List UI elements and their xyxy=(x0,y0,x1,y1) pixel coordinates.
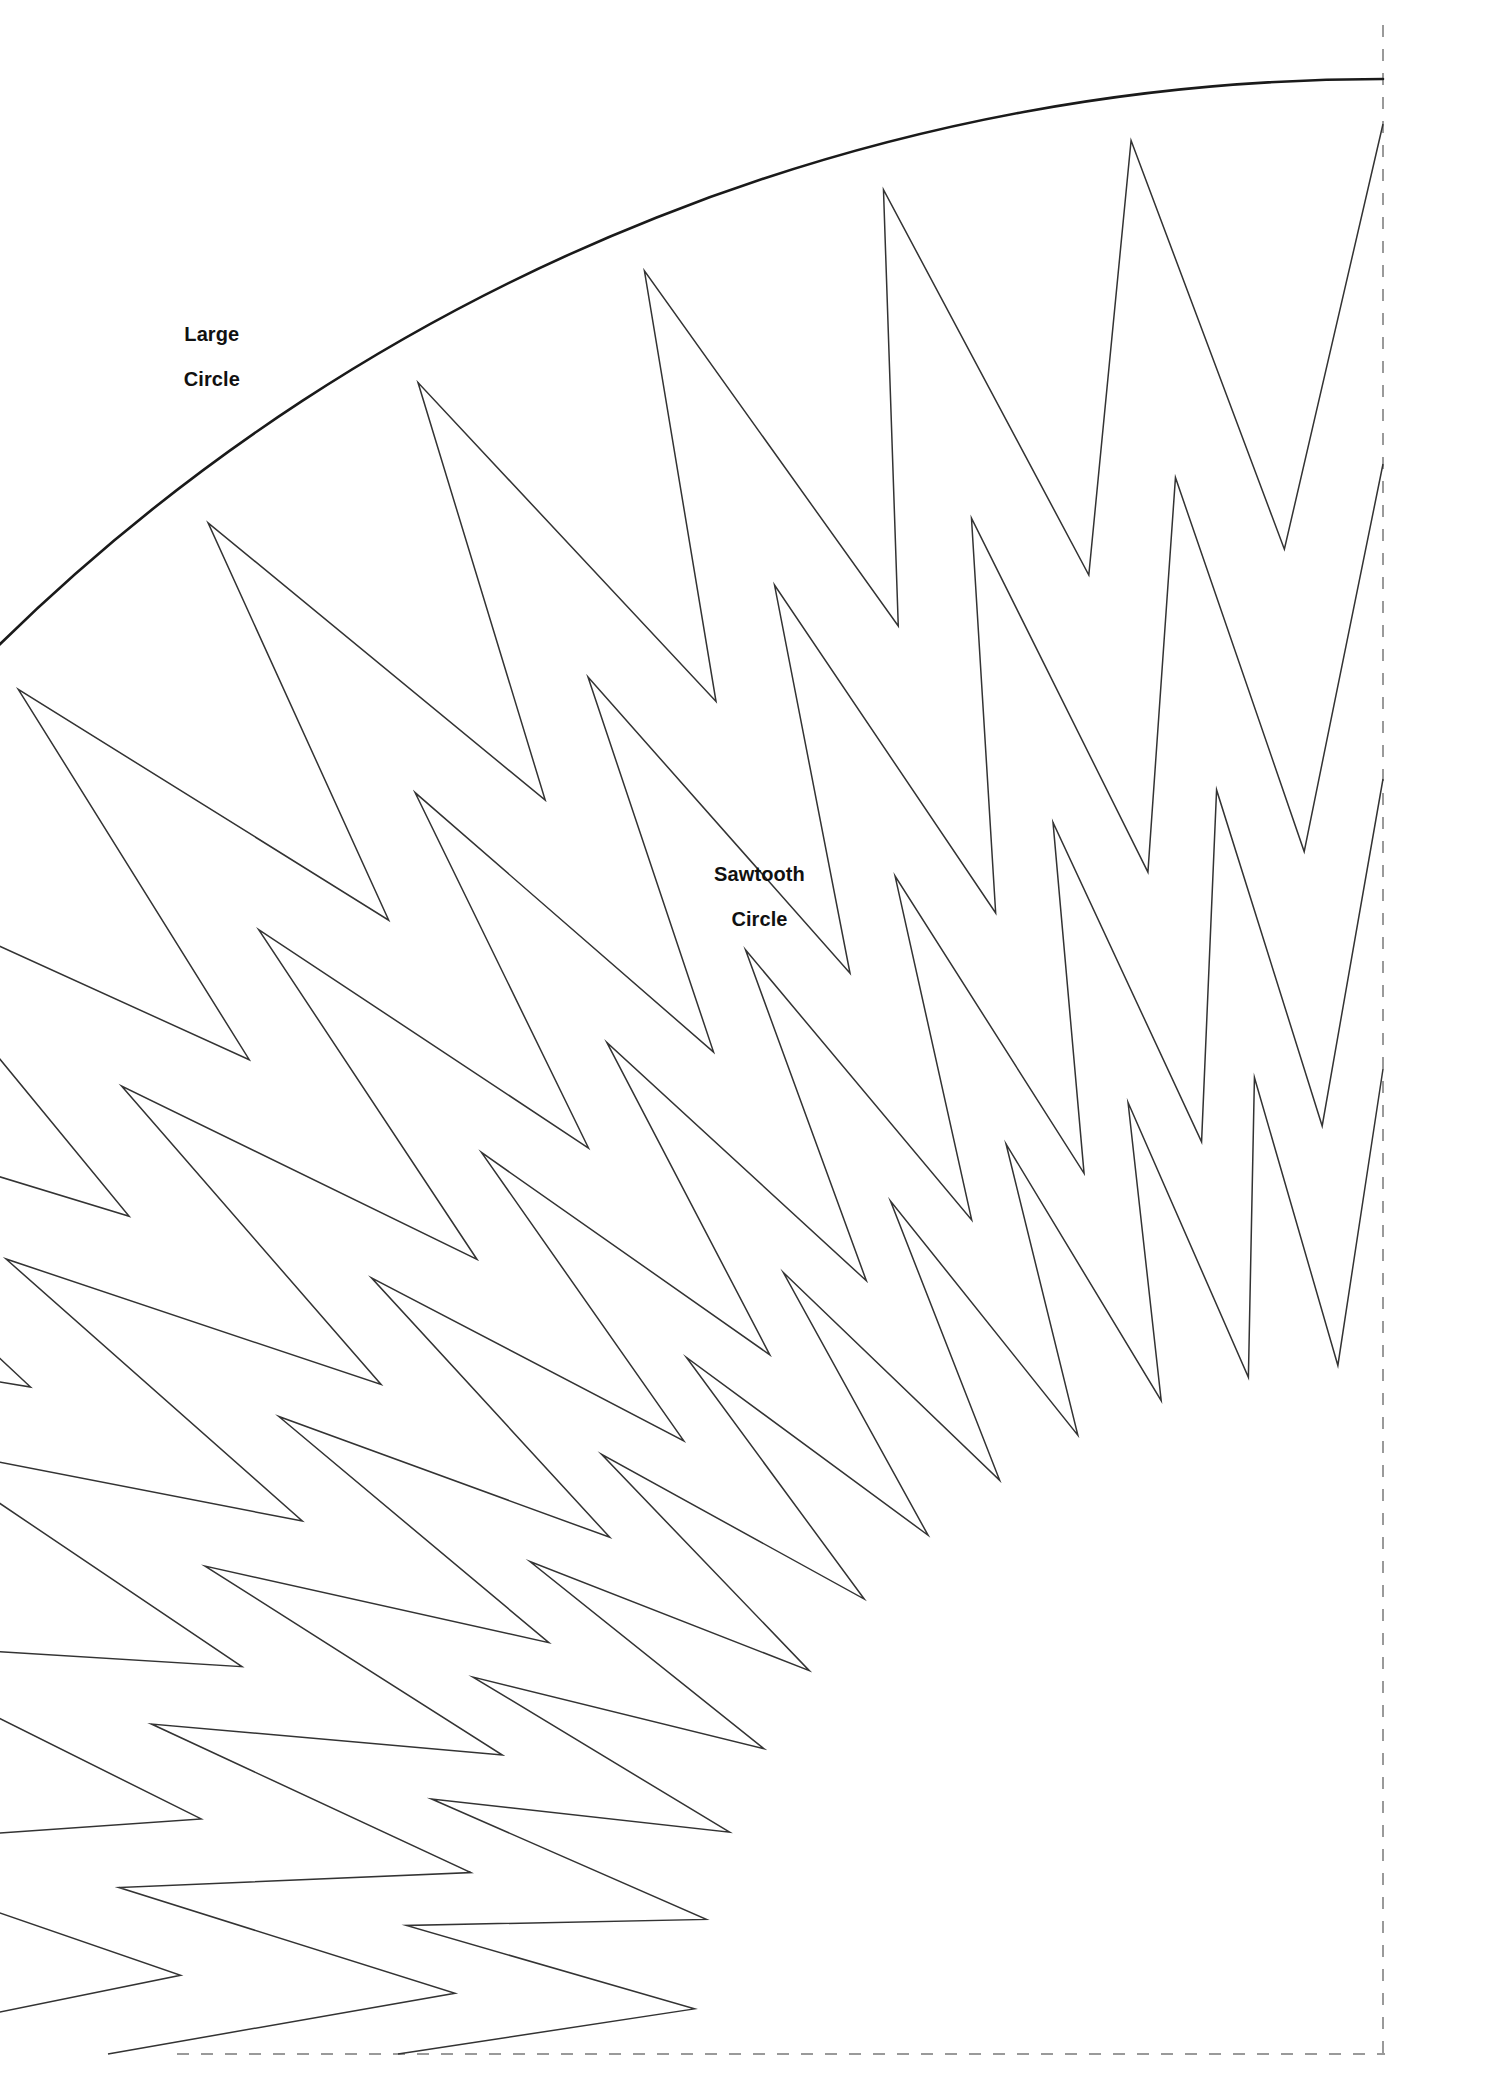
label-large-circle: Large Circle xyxy=(0,278,1485,435)
template-sheet: Large Circle Sawtooth Circle xyxy=(0,0,1485,2100)
label-large-circle-line1: Large xyxy=(184,323,239,345)
label-sawtooth-circle-line1: Sawtooth xyxy=(714,863,805,885)
label-large-circle-line2: Circle xyxy=(184,368,240,390)
label-sawtooth-circle-line2: Circle xyxy=(731,908,787,930)
label-sawtooth-circle: Sawtooth Circle xyxy=(0,818,1485,975)
